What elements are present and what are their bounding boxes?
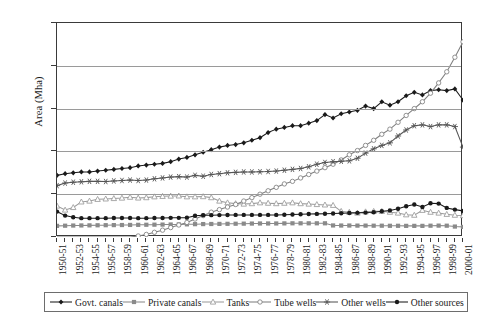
x-tick-mark [421,238,422,242]
x-tick-label: 1964-65 [173,244,182,275]
gridline [57,151,461,152]
legend-item-other-wells[interactable]: Other wells [316,297,386,308]
x-tick-mark [381,238,382,242]
x-tick-mark [308,238,309,242]
x-tick-mark [218,238,219,242]
x-tick-mark [121,238,122,242]
x-tick-mark [88,238,89,242]
x-tick-label: 1960-61 [141,244,150,275]
gridline [57,66,461,67]
x-tick-mark [64,238,65,242]
x-axis-labels: 1950-511952-531954-551956-571958-591960-… [56,238,462,290]
x-tick-mark [178,238,179,242]
series-layer [57,23,463,237]
x-tick-mark [145,238,146,242]
x-tick-mark [267,238,268,242]
x-tick-label: 1970-71 [222,244,231,275]
x-tick-label: 1962-63 [157,244,166,275]
x-tick-mark [235,238,236,242]
x-tick-label: 1978-79 [287,244,296,275]
x-tick-label: 1990-91 [384,244,393,275]
x-tick-mark [227,238,228,242]
x-tick-mark [324,238,325,242]
legend-marker-icon [123,297,145,307]
x-tick-mark [194,238,195,242]
legend-label: Other wells [340,297,386,308]
x-tick-mark [365,238,366,242]
x-tick-label: 1954-55 [92,244,101,275]
series-govt-canals [57,86,463,178]
x-tick-label: 1950-51 [59,244,68,275]
x-tick-mark [332,238,333,242]
x-tick-mark [97,238,98,242]
x-tick-label: 1974-75 [254,244,263,275]
x-tick-mark [243,238,244,242]
legend-item-private-canals[interactable]: Private canals [123,297,202,308]
x-tick-mark [170,238,171,242]
x-tick-mark [259,238,260,242]
x-tick-mark [162,238,163,242]
x-tick-mark [462,238,463,242]
y-axis-label: Area (Mha) [33,62,44,142]
x-tick-label: 1952-53 [76,244,85,275]
x-tick-mark [251,238,252,242]
gridline [57,109,461,110]
legend-marker-icon [50,297,72,307]
legend-label: Tanks [226,297,250,308]
x-tick-mark [113,238,114,242]
legend-item-other-sources[interactable]: Other sources [386,297,464,308]
legend-marker-icon [249,297,271,307]
x-tick-mark [438,238,439,242]
x-tick-mark [186,238,187,242]
x-tick-mark [405,238,406,242]
x-tick-mark [129,238,130,242]
x-tick-label: 1986-87 [352,244,361,275]
x-tick-label: 1984-85 [335,244,344,275]
chart-legend: Govt. canalsPrivate canalsTanksTube well… [44,292,468,312]
gridline [57,194,461,195]
x-tick-mark [454,238,455,242]
x-tick-mark [210,238,211,242]
x-tick-mark [202,238,203,242]
legend-item-tube-wells[interactable]: Tube wells [249,297,316,308]
legend-marker-icon [202,297,224,307]
legend-label: Private canals [147,297,202,308]
x-tick-label: 1966-67 [189,244,198,275]
x-tick-label: 1988-89 [368,244,377,275]
x-tick-label: 1980-81 [303,244,312,275]
x-tick-mark [389,238,390,242]
x-tick-label: 1996-97 [433,244,442,275]
plot-area [56,22,462,236]
x-tick-mark [430,238,431,242]
x-tick-mark [446,238,447,242]
x-tick-mark [275,238,276,242]
x-tick-mark [56,238,57,242]
x-tick-label: 1982-83 [319,244,328,275]
x-tick-mark [80,238,81,242]
x-tick-mark [105,238,106,242]
x-tick-mark [373,238,374,242]
legend-marker-icon [316,297,338,307]
x-tick-mark [291,238,292,242]
x-tick-mark [316,238,317,242]
legend-item-govt-canals[interactable]: Govt. canals [50,297,123,308]
x-tick-mark [340,238,341,242]
x-tick-mark [300,238,301,242]
legend-label: Other sources [410,297,464,308]
x-tick-mark [397,238,398,242]
x-tick-mark [348,238,349,242]
x-tick-mark [72,238,73,242]
x-tick-label: 1994-95 [417,244,426,275]
series-private-canals [57,221,463,229]
x-tick-label: 1958-59 [124,244,133,275]
x-tick-mark [283,238,284,242]
legend-label: Govt. canals [74,297,123,308]
legend-marker-icon [386,297,408,307]
series-other-wells [57,122,463,188]
x-tick-mark [153,238,154,242]
legend-item-tanks[interactable]: Tanks [202,297,250,308]
x-tick-label: 1968-69 [206,244,215,275]
x-tick-mark [413,238,414,242]
x-tick-label: 2000-01 [465,244,474,275]
x-tick-label: 1972-73 [238,244,247,275]
